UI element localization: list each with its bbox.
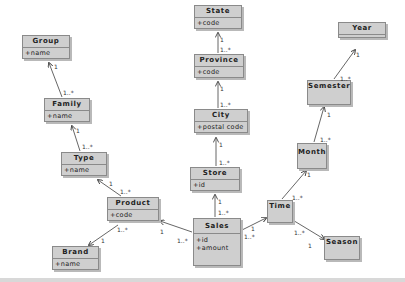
class-name: Product bbox=[108, 198, 158, 209]
class-city[interactable]: City +postal code bbox=[194, 109, 248, 133]
attribute: +code bbox=[110, 211, 156, 219]
class-brand[interactable]: Brand +name bbox=[52, 246, 99, 270]
class-season[interactable]: Season bbox=[324, 236, 360, 260]
multiplicity-type-product-one: 1 bbox=[109, 180, 113, 187]
multiplicity-city-store-one: 1 bbox=[219, 141, 223, 148]
class-name: Month bbox=[298, 147, 326, 158]
multiplicity-city-store-many: 1..* bbox=[219, 159, 230, 166]
attribute: +name bbox=[47, 112, 87, 120]
attribute: +amount bbox=[196, 244, 238, 252]
class-store[interactable]: Store +id bbox=[190, 167, 240, 191]
class-attributes: +code bbox=[195, 17, 241, 28]
multiplicity-state-province-one: 1 bbox=[220, 36, 224, 43]
multiplicity-month-semester-one: 1 bbox=[327, 111, 331, 118]
attribute: +code bbox=[197, 19, 239, 27]
class-name: Type bbox=[62, 153, 106, 164]
multiplicity-group-family-one: 1 bbox=[54, 63, 58, 70]
class-time[interactable]: Time bbox=[267, 200, 293, 223]
multiplicity-state-province-many: 1..* bbox=[220, 46, 231, 53]
class-name: State bbox=[195, 6, 241, 17]
class-name: Sales bbox=[194, 219, 240, 233]
class-group[interactable]: Group +name bbox=[22, 35, 70, 59]
multiplicity-type-product-many: 1..* bbox=[120, 188, 131, 195]
multiplicity-group-family-many: 1..* bbox=[63, 89, 74, 96]
class-type[interactable]: Type +name bbox=[61, 152, 107, 176]
class-attributes: +code bbox=[195, 66, 243, 77]
attribute: +postal code bbox=[197, 123, 245, 131]
class-family[interactable]: Family +name bbox=[44, 98, 90, 122]
class-month[interactable]: Month bbox=[297, 143, 327, 169]
multiplicity-sales-product-one: 1 bbox=[160, 228, 164, 235]
class-province[interactable]: Province +code bbox=[194, 54, 244, 78]
class-state[interactable]: State +code bbox=[194, 5, 242, 29]
class-attributes: +name bbox=[45, 110, 89, 121]
attribute: +name bbox=[25, 49, 67, 57]
multiplicity-time-month-many: 1..* bbox=[292, 194, 303, 201]
class-name: Brand bbox=[53, 247, 98, 258]
multiplicity-sales-time-one: 1 bbox=[251, 225, 255, 232]
class-sales[interactable]: Sales +id +amount bbox=[193, 218, 241, 266]
attribute: +name bbox=[64, 166, 104, 174]
class-name: Family bbox=[45, 99, 89, 110]
multiplicity-sales-product-many: 1..* bbox=[177, 237, 188, 244]
class-year[interactable]: Year bbox=[338, 22, 386, 38]
class-name: Time bbox=[268, 201, 292, 212]
attribute: +name bbox=[55, 260, 96, 268]
multiplicity-sales-time-many: 1..* bbox=[244, 233, 255, 240]
multiplicity-time-season-one: 1 bbox=[308, 242, 312, 249]
multiplicity-semester-year-many: 1..* bbox=[340, 75, 351, 82]
class-product[interactable]: Product +code bbox=[107, 197, 159, 221]
class-name: Year bbox=[339, 23, 385, 34]
attribute: +code bbox=[197, 68, 241, 76]
class-attributes bbox=[339, 34, 385, 37]
class-semester[interactable]: Semester bbox=[307, 80, 351, 105]
multiplicity-product-brand-many: 1..* bbox=[117, 226, 128, 233]
bottom-divider bbox=[0, 278, 405, 282]
multiplicity-time-season-many: 1..* bbox=[294, 229, 305, 236]
class-attributes: +postal code bbox=[195, 121, 247, 132]
multiplicity-province-city-many: 1..* bbox=[220, 101, 231, 108]
attribute: +id bbox=[193, 181, 237, 189]
attribute: +id bbox=[196, 236, 238, 244]
class-name: Store bbox=[191, 168, 239, 179]
multiplicity-family-type-many: 1..* bbox=[82, 143, 93, 150]
multiplicity-product-brand-one: 1 bbox=[101, 237, 105, 244]
multiplicity-time-month-one: 1 bbox=[307, 171, 311, 178]
class-attributes: +id +amount bbox=[194, 233, 240, 253]
multiplicity-semester-year-one: 1 bbox=[356, 51, 360, 58]
class-name: Group bbox=[23, 36, 69, 47]
class-attributes: +id bbox=[191, 179, 239, 190]
multiplicity-province-city-one: 1 bbox=[220, 85, 224, 92]
class-name: Season bbox=[325, 237, 359, 248]
multiplicity-month-semester-many: 1..* bbox=[320, 136, 331, 143]
class-attributes: +name bbox=[62, 164, 106, 175]
class-name: City bbox=[195, 110, 247, 121]
uml-diagram-canvas: Group +name Family +name Type +name Prod… bbox=[0, 0, 405, 282]
class-name: Province bbox=[195, 55, 243, 66]
class-name: Semester bbox=[308, 81, 350, 92]
class-attributes: +code bbox=[108, 209, 158, 220]
multiplicity-store-sales-many: 1..* bbox=[218, 209, 229, 216]
multiplicity-family-type-one: 1 bbox=[76, 127, 80, 134]
class-attributes: +name bbox=[53, 258, 98, 269]
class-attributes: +name bbox=[23, 47, 69, 58]
multiplicity-store-sales-one: 1 bbox=[218, 198, 222, 205]
